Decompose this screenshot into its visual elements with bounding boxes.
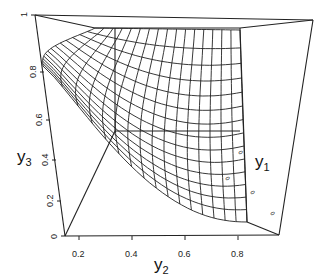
surface-mesh [43, 28, 247, 222]
z-tick-1: 1 [19, 12, 29, 17]
mesh-line [152, 29, 167, 188]
z-tick-0.6: 0.6 [34, 113, 44, 126]
y1-tick: 0 [237, 150, 244, 156]
mesh-line [128, 29, 150, 167]
mesh-line [73, 38, 242, 82]
y1-tick: 0 [224, 176, 231, 182]
surface-plot: 1 0.8 0.6 0.4 0.2 0 0.2 0.4 0.6 0.8 0 0 … [0, 0, 328, 276]
y1-tick: 0 [249, 190, 256, 196]
z-tick-0.8: 0.8 [28, 65, 38, 78]
mesh-line [43, 28, 95, 66]
mesh-line [221, 30, 225, 221]
mesh-line [44, 56, 245, 174]
z-axis-label: y3 [17, 147, 32, 168]
mesh-line [240, 30, 247, 222]
y1-tick-labels: 0 0 0 0 [224, 150, 276, 217]
x-tick-0.6: 0.6 [178, 249, 191, 259]
z-tick-0.4: 0.4 [40, 153, 50, 166]
z-tick-0.2: 0.2 [45, 194, 55, 207]
mesh-line [48, 51, 244, 150]
mesh-line [61, 28, 104, 87]
mesh-line [199, 30, 204, 215]
y1-tick: 0 [269, 211, 276, 217]
x-tick-0.4: 0.4 [125, 249, 138, 259]
y1-axis-label: y1 [255, 152, 270, 173]
mesh-line [60, 43, 242, 110]
mesh-line [231, 30, 236, 222]
mesh-line [187, 29, 194, 210]
mesh-line [140, 29, 158, 178]
mesh-line [43, 59, 246, 187]
x-tick-0.8: 0.8 [231, 249, 244, 259]
x-axis-label: y2 [154, 255, 169, 276]
z-tick-0: 0 [49, 234, 59, 239]
mesh-line [87, 32, 240, 49]
mesh-line [43, 66, 247, 222]
x-tick-0.2: 0.2 [72, 249, 85, 259]
